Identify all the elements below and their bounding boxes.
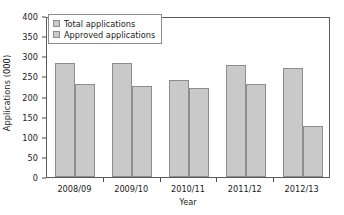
legend-label: Approved applications — [64, 30, 155, 40]
y-axis-tick-labels: 050100150200250300350400 — [12, 0, 42, 215]
bar — [303, 126, 323, 177]
y-axis-tick-label: 400 — [22, 12, 38, 22]
bar — [55, 63, 75, 177]
bar — [283, 68, 303, 177]
x-axis-tick-label: 2009/10 — [114, 184, 148, 194]
y-axis-tick-label: 300 — [22, 52, 38, 62]
x-axis-tick-label: 2012/13 — [285, 184, 319, 194]
y-axis-tick-label: 200 — [22, 93, 38, 103]
x-axis-tick-label: 2010/11 — [171, 184, 205, 194]
bar-group — [226, 18, 266, 177]
x-axis-tick-mark — [273, 178, 274, 182]
x-axis-title: Year — [46, 197, 330, 207]
bar — [112, 63, 132, 177]
y-axis-tick-label: 250 — [22, 72, 38, 82]
bar — [226, 65, 246, 177]
legend-swatch-icon — [53, 20, 60, 27]
chart-legend: Total applicationsApproved applications — [48, 14, 162, 44]
y-axis-tick-label: 150 — [22, 113, 38, 123]
y-axis-tick-label: 0 — [33, 173, 38, 183]
x-axis-tick-label: 2011/12 — [228, 184, 262, 194]
x-axis-tick-label: 2008/09 — [57, 184, 91, 194]
y-axis-title-text: Applications (000) — [2, 55, 12, 131]
y-axis-tick-label: 50 — [28, 153, 38, 163]
x-axis-tick-mark — [103, 178, 104, 182]
bar — [75, 84, 95, 177]
legend-entry: Total applications — [53, 18, 155, 29]
legend-label: Total applications — [64, 19, 135, 29]
y-axis-tick-label: 350 — [22, 32, 38, 42]
legend-swatch-icon — [53, 31, 60, 38]
bar — [169, 80, 189, 177]
y-axis-tick-label: 100 — [22, 133, 38, 143]
x-axis-tick-labels: 2008/092009/102010/112011/122012/13 — [46, 184, 330, 197]
bar — [246, 84, 266, 177]
x-axis-tick-mark — [160, 178, 161, 182]
bar — [132, 86, 152, 177]
legend-entry: Approved applications — [53, 29, 155, 40]
x-axis-tick-mark — [216, 178, 217, 182]
bar — [189, 88, 209, 177]
bar-chart: Applications (000) 050100150200250300350… — [0, 0, 344, 215]
bar-group — [169, 18, 209, 177]
bar-group — [283, 18, 323, 177]
